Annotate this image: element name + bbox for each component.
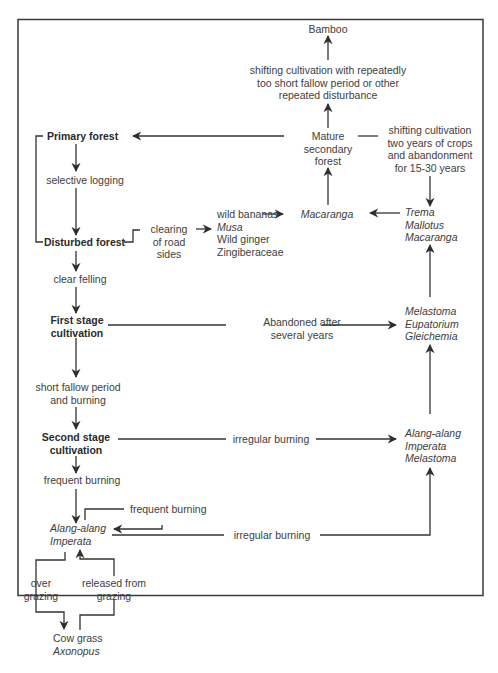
- text-line: sides: [151, 248, 188, 261]
- node-selective-logging: selective logging: [46, 174, 124, 187]
- node-released-from-grazing: released from grazing: [82, 577, 146, 602]
- text-line: Cow grass: [53, 632, 103, 645]
- text-line: too short fallow period or other: [250, 77, 406, 90]
- text-line: grazing: [82, 590, 146, 603]
- node-clear-felling: clear felling: [53, 273, 106, 286]
- text-line: several years: [263, 329, 341, 342]
- text-line: forest: [304, 155, 352, 168]
- text-line: clearing: [151, 223, 188, 236]
- node-first-stage-cultivation: First stage cultivation: [50, 314, 103, 339]
- text-line: Wild ginger: [217, 233, 284, 246]
- node-bamboo: Bamboo: [308, 23, 347, 36]
- text-line: Zingiberaceae: [217, 246, 284, 259]
- node-frequent-burning: frequent burning: [44, 474, 120, 487]
- text-line: Mature: [304, 130, 352, 143]
- text-line: Eupatorium: [405, 318, 459, 331]
- text-line: cultivation: [50, 327, 103, 340]
- node-frequent-burning-loop: frequent burning: [130, 503, 206, 516]
- text-line: and abandonment: [387, 149, 472, 162]
- node-irregular-burning-1: irregular burning: [233, 433, 309, 446]
- text-line: short fallow period: [35, 381, 120, 394]
- node-mature-secondary-forest: Mature secondary forest: [304, 130, 352, 168]
- node-second-stage-cultivation: Second stage cultivation: [42, 431, 110, 456]
- node-cow-grass: Cow grass Axonopus: [53, 632, 103, 657]
- text-line: shifting cultivation: [387, 124, 472, 137]
- node-alang-group-right: Alang-alang Imperata Melastoma: [405, 427, 461, 465]
- node-macaranga: Macaranga: [301, 208, 354, 221]
- node-alang-left: Alang-alang Imperata: [50, 522, 106, 547]
- succession-diagram: Bamboo shifting cultivation with repeate…: [0, 0, 498, 673]
- text-line: and burning: [35, 394, 120, 407]
- text-line: grazing: [24, 590, 58, 603]
- text-line: First stage: [50, 314, 103, 327]
- text-line: Gleichemia: [405, 330, 459, 343]
- text-line: wild bananas: [217, 208, 284, 221]
- text-line: two years of crops: [387, 137, 472, 150]
- text-line: Axonopus: [53, 645, 103, 658]
- node-wild-bananas-group: wild bananas Musa Wild ginger Zingiberac…: [217, 208, 284, 258]
- text-line: of road: [151, 236, 188, 249]
- text-line: Melastoma: [405, 305, 459, 318]
- text-line: over: [24, 577, 58, 590]
- node-irregular-burning-2: irregular burning: [234, 529, 310, 542]
- node-clearing-road-sides: clearing of road sides: [151, 223, 188, 261]
- text-line: shifting cultivation with repeatedly: [250, 64, 406, 77]
- text-line: Second stage: [42, 431, 110, 444]
- node-trema-group: Trema Mallotus Macaranga: [405, 206, 458, 244]
- text-line: Imperata: [50, 535, 106, 548]
- text-line: Macaranga: [405, 231, 458, 244]
- text-line: Alang-alang: [50, 522, 106, 535]
- text-line: for 15-30 years: [387, 162, 472, 175]
- node-shifting-two-years: shifting cultivation two years of crops …: [387, 124, 472, 174]
- node-melastoma-group: Melastoma Eupatorium Gleichemia: [405, 305, 459, 343]
- text-line: Melastoma: [405, 452, 461, 465]
- text-line: released from: [82, 577, 146, 590]
- text-line: Mallotus: [405, 219, 458, 232]
- node-primary-forest: Primary forest: [47, 130, 118, 143]
- text-line: Trema: [405, 206, 458, 219]
- text-line: cultivation: [42, 444, 110, 457]
- text-line: repeated disturbance: [250, 89, 406, 102]
- node-disturbed-forest: Disturbed forest: [44, 236, 125, 249]
- node-short-fallow: short fallow period and burning: [35, 381, 120, 406]
- text-line: Musa: [217, 221, 284, 234]
- text-line: secondary: [304, 143, 352, 156]
- text-line: Imperata: [405, 440, 461, 453]
- node-shifting-repeated: shifting cultivation with repeatedly too…: [250, 64, 406, 102]
- text-line: Abandoned after: [263, 316, 341, 329]
- node-over-grazing: over grazing: [24, 577, 58, 602]
- text-line: Alang-alang: [405, 427, 461, 440]
- node-abandoned-after: Abandoned after several years: [263, 316, 341, 341]
